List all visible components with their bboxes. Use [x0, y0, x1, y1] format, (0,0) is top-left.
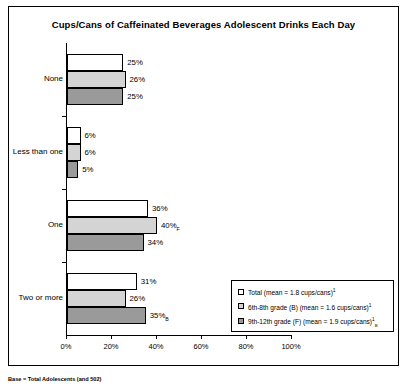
- bar-none-series-0: [67, 54, 123, 71]
- legend-label: 9th-12th grade (F) (mean = 1.9 cups/cans…: [248, 316, 378, 330]
- bar-value-label: 35%B: [150, 307, 169, 324]
- bar-value-label: 25%: [127, 54, 143, 71]
- bar-less-than-one-series-1: [67, 144, 81, 161]
- bar-value-label: 25%: [127, 88, 143, 105]
- x-axis-tick: [291, 335, 292, 339]
- bar-value-label: 36%: [152, 200, 168, 217]
- bar-less-than-one-series-2: [67, 161, 78, 178]
- bar-value-label: 26%: [130, 290, 146, 307]
- y-axis-tick: [62, 116, 66, 117]
- chart-title: Cups/Cans of Caffeinated Beverages Adole…: [9, 19, 398, 30]
- legend-item-1[interactable]: 6th-8th grade (B) (mean = 1.6 cups/cans)…: [238, 302, 388, 312]
- category-label-none: None: [44, 74, 63, 83]
- bar-value-label: 40%F: [161, 217, 180, 234]
- x-axis-tick-label: 80%: [238, 342, 253, 351]
- legend-swatch-icon: [238, 289, 244, 295]
- bar-less-than-one-series-0: [67, 127, 81, 144]
- bar-one-series-0: [67, 200, 148, 217]
- chart-footnote: Base = Total Adolescents (and 502): [8, 376, 101, 382]
- x-axis-line: [66, 335, 292, 336]
- legend-item-0[interactable]: Total (mean = 1.8 cups/cans)1: [238, 287, 388, 297]
- y-axis-tick: [62, 189, 66, 190]
- legend-item-2[interactable]: 9th-12th grade (F) (mean = 1.9 cups/cans…: [238, 316, 388, 330]
- bar-two-or-more-series-2: [67, 307, 146, 324]
- legend-swatch-icon: [238, 303, 244, 309]
- category-label-one: One: [48, 220, 63, 229]
- legend-label: 6th-8th grade (B) (mean = 1.6 cups/cans)…: [248, 302, 371, 312]
- bar-two-or-more-series-0: [67, 273, 137, 290]
- x-axis-tick-label: 0%: [61, 342, 72, 351]
- category-label-less-than-one: Less than one: [13, 147, 63, 156]
- bar-value-label: 6%: [85, 144, 96, 161]
- bar-value-label: 5%: [82, 161, 93, 178]
- x-axis-tick: [156, 335, 157, 339]
- x-axis-tick: [201, 335, 202, 339]
- x-axis-tick: [111, 335, 112, 339]
- legend-swatch-icon: [238, 318, 244, 324]
- x-axis-tick-label: 40%: [148, 342, 163, 351]
- category-label-column: NoneLess than oneOneTwo or more: [5, 43, 63, 335]
- x-axis-tick-label: 20%: [103, 342, 118, 351]
- bar-value-label: 26%: [130, 71, 146, 88]
- bar-one-series-2: [67, 234, 144, 251]
- x-axis-tick: [66, 335, 67, 339]
- category-label-two-or-more: Two or more: [19, 293, 63, 302]
- bar-none-series-2: [67, 88, 123, 105]
- chart-legend: Total (mean = 1.8 cups/cans)16th-8th gra…: [231, 280, 394, 332]
- x-axis-tick-label: 60%: [193, 342, 208, 351]
- x-axis-tick-label: 100%: [281, 342, 300, 351]
- y-axis-tick: [62, 262, 66, 263]
- bar-two-or-more-series-1: [67, 290, 126, 307]
- x-axis-tick: [246, 335, 247, 339]
- bar-value-label: 6%: [85, 127, 96, 144]
- bar-one-series-1: [67, 217, 157, 234]
- bar-value-label: 34%: [148, 234, 164, 251]
- bar-value-label: 31%: [141, 273, 157, 290]
- chart-frame: Cups/Cans of Caffeinated Beverages Adole…: [8, 6, 399, 366]
- bar-none-series-1: [67, 71, 126, 88]
- legend-label: Total (mean = 1.8 cups/cans)1: [248, 287, 336, 297]
